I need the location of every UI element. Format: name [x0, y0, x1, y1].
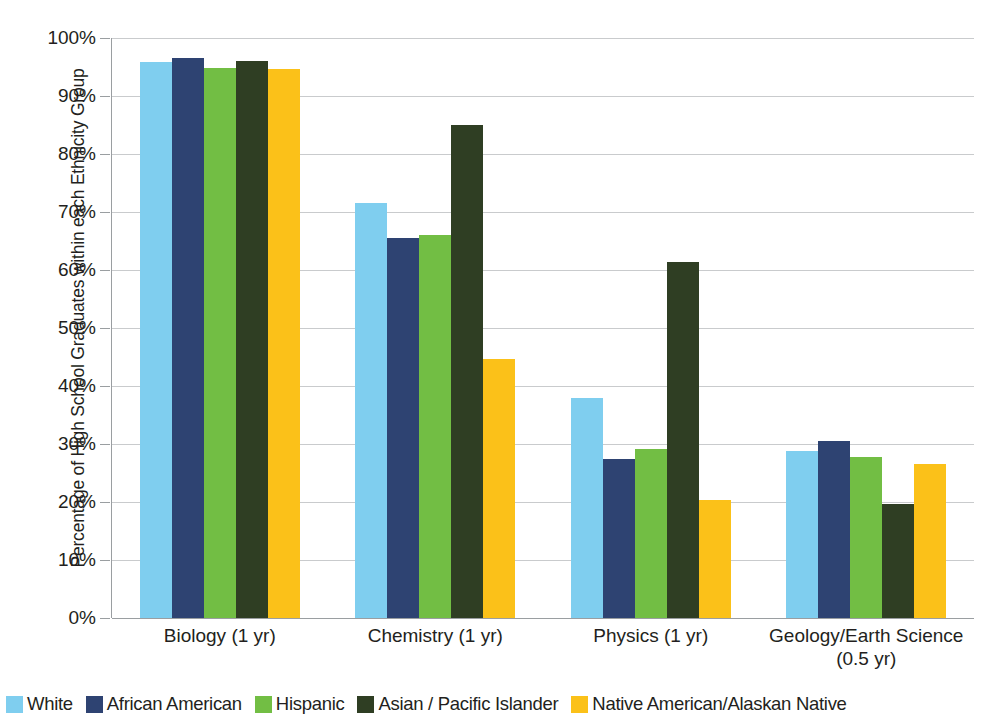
y-axis-tick-label: 100% [6, 27, 96, 49]
bar [204, 68, 236, 618]
y-axis-tick [100, 560, 110, 561]
y-axis-tick [100, 96, 110, 97]
legend-swatch-icon [255, 696, 272, 713]
legend-swatch-icon [357, 696, 374, 713]
y-axis-tick [100, 502, 110, 503]
bar [603, 459, 635, 618]
x-axis-category-label: Chemistry (1 yr) [328, 624, 544, 647]
bar [483, 359, 515, 618]
y-axis-tick-label: 70% [6, 201, 96, 223]
y-axis-tick [100, 328, 110, 329]
bar [882, 504, 914, 618]
x-axis-line [112, 618, 974, 619]
bar [635, 449, 667, 618]
bar [387, 238, 419, 618]
bar [268, 69, 300, 618]
x-axis-category-label: Geology/Earth Science (0.5 yr) [759, 624, 975, 670]
y-axis-tick [100, 386, 110, 387]
y-axis-tick-label: 60% [6, 259, 96, 281]
y-axis-tick-label: 10% [6, 549, 96, 571]
legend-label: African American [107, 693, 242, 715]
y-axis-tick-label: 90% [6, 85, 96, 107]
y-axis-tick-label: 0% [6, 607, 96, 629]
x-axis-category-label: Physics (1 yr) [543, 624, 759, 647]
legend-item[interactable]: Asian / Pacific Islander [357, 693, 558, 715]
legend-item[interactable]: White [6, 693, 73, 715]
bar [355, 203, 387, 618]
bar [571, 398, 603, 618]
bar [786, 451, 818, 618]
y-axis-tick-label: 50% [6, 317, 96, 339]
bar [451, 125, 483, 618]
legend-label: Hispanic [276, 693, 345, 715]
legend-swatch-icon [571, 696, 588, 713]
y-axis-tick-label: 40% [6, 375, 96, 397]
bar [140, 62, 172, 618]
gridline [112, 38, 974, 39]
y-axis-tick-label: 20% [6, 491, 96, 513]
x-axis-category-label: Biology (1 yr) [112, 624, 328, 647]
bar [818, 441, 850, 618]
bar [850, 457, 882, 618]
y-axis-tick [100, 618, 110, 619]
legend-swatch-icon [6, 696, 23, 713]
bar [236, 61, 268, 618]
chart-legend: WhiteAfrican AmericanHispanicAsian / Pac… [0, 692, 1000, 716]
y-axis-tick [100, 270, 110, 271]
plot-area: 100%90%80%70%60%50%40%30%20%10%0% [112, 38, 974, 618]
bar [172, 58, 204, 618]
legend-label: White [27, 693, 73, 715]
y-axis-tick [100, 154, 110, 155]
y-axis-tick-label: 80% [6, 143, 96, 165]
legend-item[interactable]: Hispanic [255, 693, 345, 715]
legend-label: Asian / Pacific Islander [378, 693, 558, 715]
bar [699, 500, 731, 618]
bar [914, 464, 946, 618]
legend-label: Native American/Alaskan Native [592, 693, 846, 715]
y-axis-tick [100, 38, 110, 39]
y-axis-tick-label: 30% [6, 433, 96, 455]
chart-container: Percentage of High School Graduates with… [0, 0, 1000, 719]
y-axis-tick [100, 212, 110, 213]
legend-item[interactable]: Native American/Alaskan Native [571, 693, 846, 715]
y-axis-tick [100, 444, 110, 445]
legend-item[interactable]: African American [86, 693, 242, 715]
bar [419, 235, 451, 618]
legend-swatch-icon [86, 696, 103, 713]
bar [667, 262, 699, 618]
